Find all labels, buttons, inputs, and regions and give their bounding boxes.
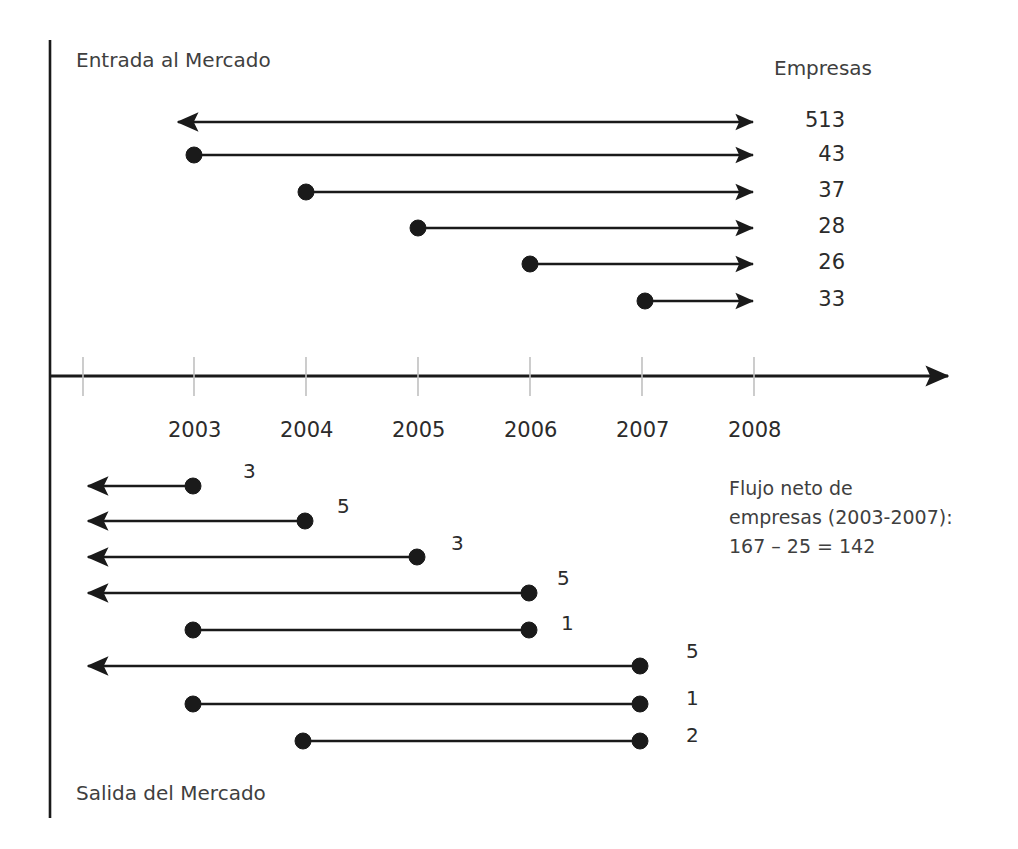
entry-start-dot	[637, 293, 653, 309]
x-tick-label-2008: 2008	[728, 418, 781, 442]
exit-end-dot	[297, 513, 313, 529]
exit-end-dot	[521, 622, 537, 638]
entry-start-dot	[298, 184, 314, 200]
entry-start-dot	[410, 220, 426, 236]
exit-start-dot	[185, 696, 201, 712]
exit-count-value: 5	[337, 494, 350, 518]
entry-start-dot	[186, 147, 202, 163]
net-flow-line-2: empresas (2003-2007):	[729, 503, 989, 532]
exit-end-dot	[632, 696, 648, 712]
exit-end-dot	[185, 478, 201, 494]
exit-end-dot	[409, 549, 425, 565]
entry-count-value: 28	[775, 214, 845, 238]
exit-count-value: 5	[557, 566, 570, 590]
entry-count-value: 513	[775, 108, 845, 132]
net-flow-line-1: Flujo neto de	[729, 474, 989, 503]
bottom-axis-title: Salida del Mercado	[76, 781, 266, 805]
exit-start-dot	[295, 733, 311, 749]
x-tick-label-2005: 2005	[392, 418, 445, 442]
net-flow-annotation: Flujo neto de empresas (2003-2007): 167 …	[729, 474, 989, 561]
x-tick-label-2007: 2007	[616, 418, 669, 442]
exit-count-value: 1	[686, 686, 699, 710]
entry-start-dot	[522, 256, 538, 272]
entry-count-value: 43	[775, 142, 845, 166]
entry-count-value: 33	[775, 287, 845, 311]
figure-canvas: Entrada al Mercado Salida del Mercado Em…	[0, 0, 1018, 849]
exit-start-dot	[185, 622, 201, 638]
x-tick-label-2006: 2006	[504, 418, 557, 442]
entry-count-value: 37	[775, 178, 845, 202]
exit-end-dot	[632, 733, 648, 749]
exit-count-value: 3	[243, 459, 256, 483]
entry-count-value: 26	[775, 250, 845, 274]
exit-count-value: 3	[451, 531, 464, 555]
exit-end-dot	[632, 658, 648, 674]
exit-count-value: 5	[686, 639, 699, 663]
exit-count-value: 1	[561, 611, 574, 635]
x-tick-label-2003: 2003	[168, 418, 221, 442]
x-tick-label-2004: 2004	[280, 418, 333, 442]
exit-count-value: 2	[686, 723, 699, 747]
exit-end-dot	[521, 585, 537, 601]
net-flow-line-3: 167 – 25 = 142	[729, 532, 989, 561]
entry-segments	[178, 122, 753, 309]
series-header-empresas: Empresas	[774, 56, 872, 80]
top-axis-title: Entrada al Mercado	[76, 48, 271, 72]
